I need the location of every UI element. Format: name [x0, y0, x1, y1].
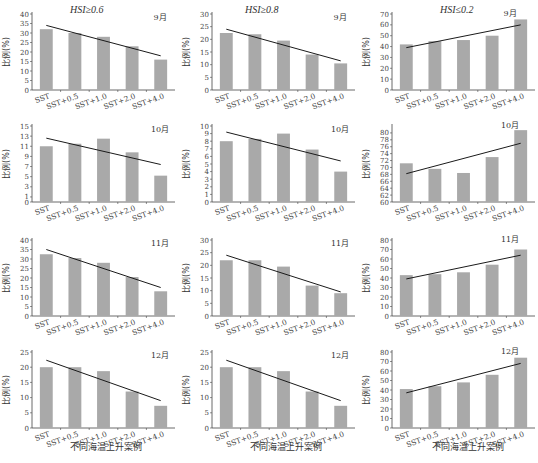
y-tick-label: 0 — [385, 425, 389, 433]
y-tick-label: 60 — [380, 368, 389, 376]
bar-SST — [40, 146, 53, 202]
y-tick-label: 0 — [205, 425, 209, 433]
y-tick-label: 60 — [380, 21, 389, 29]
y-tick-label: 11 — [20, 143, 29, 151]
y-tick-label: 7 — [25, 163, 29, 171]
bar-SST+2.0 — [486, 157, 499, 202]
y-tick-label: 20 — [200, 262, 209, 270]
y-tick-label: 20 — [200, 364, 209, 372]
y-tick-label: 5 — [205, 74, 209, 82]
bar-SST+4.0 — [514, 130, 527, 202]
bar-SST+0.5 — [428, 41, 441, 90]
month-label: 11月 — [151, 239, 169, 248]
chart-panel-10月-col3: 比例(%)6062646668707274767880SSTSST+0.5SST… — [360, 120, 538, 232]
month-label: 10月 — [501, 121, 519, 130]
x-tick-label: SST+4.0 — [491, 317, 526, 337]
y-axis-label: 比例(%) — [361, 37, 371, 67]
x-tick-label: SST+4.0 — [311, 317, 346, 337]
bar-SST — [220, 141, 233, 202]
x-tick-label: SST+0.5 — [45, 91, 80, 111]
bar-SST+0.5 — [428, 169, 441, 202]
x-tick-label: SST+1.0 — [74, 91, 109, 111]
month-label: 9月 — [333, 13, 346, 22]
bar-SST+1.0 — [277, 371, 290, 428]
x-tick-label: SST+2.0 — [102, 91, 137, 111]
bar-SST+4.0 — [334, 172, 347, 202]
y-tick-label: 30 — [20, 30, 29, 38]
y-tick-label: 66 — [380, 178, 389, 186]
bar-SST — [40, 254, 53, 316]
y-tick-label: 30 — [380, 396, 389, 404]
y-tick-label: 20 — [200, 36, 209, 44]
y-axis-label: 比例(%) — [361, 149, 371, 179]
bar-SST+2.0 — [306, 55, 319, 90]
y-tick-label: 15 — [200, 49, 209, 57]
y-tick-label: 50 — [380, 377, 389, 385]
bar-SST+1.0 — [277, 134, 290, 202]
x-tick-label: SST+2.0 — [282, 317, 317, 337]
y-tick-label: 0 — [205, 313, 209, 321]
y-tick-label: 5 — [25, 303, 29, 311]
month-label: 12月 — [151, 351, 169, 360]
bar-SST — [400, 163, 413, 202]
bar-SST+0.5 — [68, 258, 81, 316]
y-tick-label: 30 — [380, 54, 389, 62]
y-tick-label: 25 — [20, 265, 29, 273]
y-tick-label: 62 — [380, 192, 389, 200]
x-tick-label: SST+0.5 — [45, 317, 80, 337]
y-axis-label: 比例(%) — [181, 375, 191, 405]
month-label: 10月 — [151, 125, 169, 134]
y-tick-label: 50 — [380, 265, 389, 273]
y-axis-label: 比例(%) — [1, 149, 11, 179]
bar-SST — [400, 44, 413, 90]
y-tick-label: 20 — [20, 49, 29, 57]
y-tick-label: 20 — [380, 294, 389, 302]
x-tick-label: SST+1.0 — [74, 317, 109, 337]
x-tick-label: SST+4.0 — [131, 317, 166, 337]
y-axis-label: 比例(%) — [1, 263, 11, 293]
y-tick-label: 1 — [25, 193, 29, 201]
bar-SST+4.0 — [154, 406, 167, 428]
y-axis-label: 比例(%) — [1, 375, 11, 405]
y-tick-label: 25 — [200, 349, 209, 357]
bar-SST+1.0 — [457, 382, 470, 428]
y-tick-label: 15 — [20, 123, 29, 131]
bar-SST — [40, 367, 53, 428]
y-tick-label: 1 — [205, 191, 209, 199]
x-tick-label: SST+2.0 — [462, 317, 497, 337]
x-tick-label: SST+1.0 — [434, 91, 469, 111]
bar-SST+2.0 — [486, 36, 499, 90]
y-tick-label: 5 — [205, 409, 209, 417]
y-tick-label: 0 — [385, 313, 389, 321]
y-tick-label: 15 — [200, 275, 209, 283]
chart-panel-9月-col3: 比例(%)010203040506070SSTSST+0.5SST+1.0SST… — [360, 8, 538, 120]
y-tick-label: 9 — [25, 153, 29, 161]
bar-SST+0.5 — [248, 34, 261, 90]
bar-SST — [400, 389, 413, 428]
y-tick-label: 20 — [380, 406, 389, 414]
y-tick-label: 20 — [20, 275, 29, 283]
y-tick-label: 25 — [200, 249, 209, 257]
month-label: 11月 — [501, 235, 519, 244]
y-tick-label: 6 — [205, 153, 210, 161]
chart-panel-10月-col2: 比例(%)012345678910SSTSST+0.5SST+1.0SST+2.… — [180, 120, 359, 232]
x-tick-label: SST+2.0 — [462, 91, 497, 111]
y-tick-label: 8 — [205, 138, 209, 146]
x-tick-label: SST+4.0 — [491, 203, 526, 223]
y-tick-label: 50 — [380, 32, 389, 40]
bar-SST+0.5 — [68, 144, 81, 202]
x-tick-label: SST+0.5 — [45, 203, 80, 223]
x-tick-label: SST+0.5 — [405, 91, 440, 111]
y-tick-label: 60 — [380, 199, 389, 207]
month-label: 11月 — [331, 239, 349, 248]
bar-SST+1.0 — [97, 139, 110, 202]
x-tick-label: SST+2.0 — [282, 91, 317, 111]
y-axis-label: 比例(%) — [361, 263, 371, 293]
y-tick-label: 40 — [20, 237, 29, 245]
bar-SST+2.0 — [126, 46, 139, 90]
bar-SST+2.0 — [306, 286, 319, 316]
chart-panel-9月-col2: 比例(%)051015202530SSTSST+0.5SST+1.0SST+2.… — [180, 8, 359, 120]
bar-SST+0.5 — [428, 386, 441, 428]
x-axis-label-col1: 不同海温上升案例 — [70, 440, 142, 453]
y-tick-label: 40 — [380, 275, 389, 283]
